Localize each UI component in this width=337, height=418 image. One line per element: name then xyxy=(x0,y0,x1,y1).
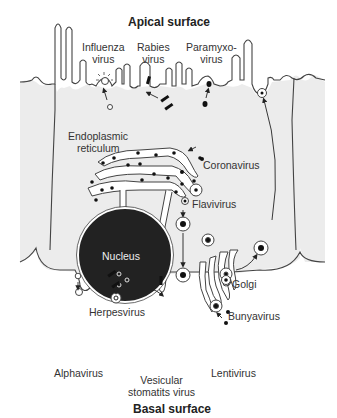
basal-surface-title: Basal surface xyxy=(133,402,211,416)
nucleus-label: Nucleus xyxy=(102,250,140,262)
er-label: Endoplasmic reticulum xyxy=(68,130,128,154)
influenza-virus-label: Influenza virus xyxy=(82,41,125,65)
flavivirus-label: Flavivirus xyxy=(192,198,236,210)
bunyavirus-label: Bunyavirus xyxy=(228,310,280,322)
coronavirus-label: Coronavirus xyxy=(203,159,260,171)
vsv-label: Vesicular stomatits virus xyxy=(128,374,195,398)
virus-assembly-diagram: Apical surface Basal surface Influenza v… xyxy=(0,0,337,418)
herpesvirus-label: Herpesvirus xyxy=(89,306,145,318)
golgi-label: Golgi xyxy=(232,278,257,290)
rabies-virus-label: Rabies virus xyxy=(137,41,170,65)
lentivirus-label: Lentivirus xyxy=(211,367,256,379)
apical-surface-title: Apical surface xyxy=(128,15,210,29)
alphavirus-label: Alphavirus xyxy=(54,367,103,379)
paramyxovirus-label: Paramyxo- virus xyxy=(186,41,237,65)
